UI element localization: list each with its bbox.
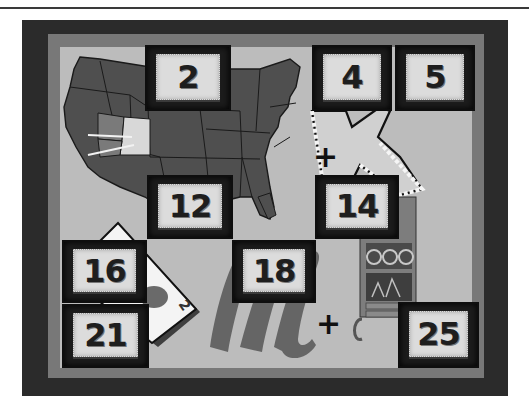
plus-sign-lower: + (316, 309, 341, 339)
number-tile-4[interactable]: 4 (312, 45, 392, 111)
tile-number-label: 14 (326, 184, 388, 228)
plus-sign-upper: + (313, 142, 338, 172)
tile-number-label: 4 (323, 54, 381, 100)
tile-number-label: 16 (73, 249, 136, 292)
tile-number-label: 21 (73, 313, 138, 357)
number-tile-5[interactable]: 5 (395, 45, 475, 111)
tile-number-label: 25 (409, 311, 468, 357)
number-tile-2[interactable]: 2 (145, 45, 231, 111)
tile-number-label: 18 (243, 249, 305, 292)
top-divider-line (0, 7, 529, 9)
number-tile-18[interactable]: 18 (232, 240, 316, 303)
number-tile-12[interactable]: 12 (147, 175, 233, 239)
tile-number-label: 2 (156, 54, 220, 100)
number-tile-25[interactable]: 25 (398, 302, 479, 368)
tile-number-label: 12 (158, 184, 222, 228)
number-tile-14[interactable]: 14 (315, 175, 399, 239)
number-tile-21[interactable]: 21 (62, 304, 149, 368)
number-tile-16[interactable]: 16 (62, 240, 147, 303)
tile-number-label: 5 (406, 54, 464, 100)
